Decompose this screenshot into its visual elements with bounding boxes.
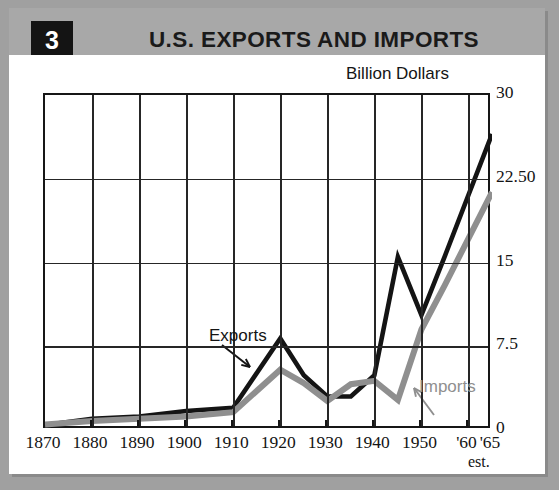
x-axis-tick bbox=[325, 420, 327, 428]
chart-body: Billion Dollars 07.51522.5030 1870188018… bbox=[9, 55, 545, 474]
gridline-vertical bbox=[280, 95, 282, 426]
gridline-vertical bbox=[374, 95, 376, 426]
x-axis-tick bbox=[419, 420, 421, 428]
gridline-vertical bbox=[327, 95, 329, 426]
x-axis-tick-label: 1950 bbox=[402, 432, 437, 453]
gridline-vertical bbox=[233, 95, 235, 426]
gridline-horizontal bbox=[45, 263, 488, 265]
x-axis-tick bbox=[90, 420, 92, 428]
series-label-exports: Exports bbox=[209, 326, 267, 346]
chart-header: 3 U.S. EXPORTS AND IMPORTS bbox=[9, 8, 545, 55]
y-axis-tick-label: 22.50 bbox=[496, 166, 535, 187]
y-axis-unit-label: Billion Dollars bbox=[346, 64, 449, 84]
estimate-note: est. bbox=[468, 453, 490, 471]
y-axis-tick-label: 7.5 bbox=[496, 333, 518, 354]
x-axis-tick-label: 1910 bbox=[214, 432, 249, 453]
x-axis-tick bbox=[466, 420, 468, 428]
gridline-vertical bbox=[186, 95, 188, 426]
x-axis-tick-label: '60 bbox=[456, 432, 477, 453]
chart-number-badge: 3 bbox=[31, 21, 73, 59]
gridline-vertical bbox=[139, 95, 141, 426]
poster-frame: 3 U.S. EXPORTS AND IMPORTS Billion Dolla… bbox=[0, 0, 559, 490]
x-axis-tick bbox=[372, 420, 374, 428]
x-axis-tick-label: 1920 bbox=[261, 432, 296, 453]
x-axis-tick bbox=[137, 420, 139, 428]
x-axis-tick-label: 1870 bbox=[26, 432, 61, 453]
x-axis-tick-label: 1940 bbox=[355, 432, 390, 453]
series-label-imports: Imports bbox=[419, 377, 476, 397]
x-axis-tick-label: 1930 bbox=[308, 432, 343, 453]
x-axis-tick bbox=[278, 420, 280, 428]
exports-annotation-arrow bbox=[222, 345, 250, 367]
x-axis-tick-label: 1880 bbox=[73, 432, 108, 453]
gridline-horizontal bbox=[45, 179, 488, 181]
gridline-horizontal bbox=[45, 346, 488, 348]
x-axis-tick-label: 1890 bbox=[120, 432, 155, 453]
x-axis-tick-label: '65 bbox=[480, 432, 501, 453]
x-axis-tick bbox=[184, 420, 186, 428]
x-axis-tick bbox=[231, 420, 233, 428]
y-axis-tick-label: 15 bbox=[496, 250, 514, 271]
x-axis-tick-label: 1900 bbox=[167, 432, 202, 453]
gridline-vertical bbox=[92, 95, 94, 426]
y-axis-tick-label: 30 bbox=[496, 82, 514, 103]
